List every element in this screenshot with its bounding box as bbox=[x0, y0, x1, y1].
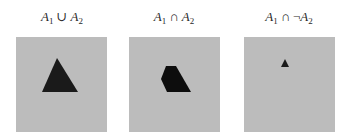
label-operator: ∪ bbox=[57, 9, 68, 24]
panel-union: A1∪A2 bbox=[7, 0, 117, 138]
label-right-var: A bbox=[182, 9, 190, 24]
label-left-var: A bbox=[154, 9, 162, 24]
label-operator: ∩ bbox=[169, 9, 178, 24]
image-canvas-intersection bbox=[129, 37, 220, 132]
label-operator: ∩ bbox=[281, 9, 290, 24]
label-right-sub: 2 bbox=[78, 16, 83, 26]
label-left-sub: 1 bbox=[162, 16, 167, 26]
label-left-sub: 1 bbox=[49, 16, 54, 26]
pentagon-shape bbox=[161, 66, 191, 92]
panel-difference: A1∩¬A2 bbox=[234, 0, 344, 138]
image-canvas-union bbox=[16, 37, 107, 132]
label-left-var: A bbox=[265, 9, 273, 24]
panel-label-intersection: A1∩A2 bbox=[119, 9, 229, 25]
panel-label-union: A1∪A2 bbox=[7, 9, 117, 25]
label-left-sub: 1 bbox=[273, 16, 278, 26]
shape-canvas-union bbox=[16, 37, 107, 132]
triangle-shape bbox=[42, 58, 78, 92]
shape-canvas-intersection bbox=[129, 37, 220, 132]
small-triangle-shape bbox=[281, 59, 289, 67]
image-canvas-difference bbox=[244, 37, 335, 132]
label-right-sub: 2 bbox=[190, 16, 195, 26]
label-left-var: A bbox=[41, 9, 49, 24]
shape-canvas-difference bbox=[244, 37, 335, 132]
panel-label-difference: A1∩¬A2 bbox=[234, 9, 344, 25]
panel-intersection: A1∩A2 bbox=[119, 0, 229, 138]
label-right-sub: 2 bbox=[308, 16, 313, 26]
